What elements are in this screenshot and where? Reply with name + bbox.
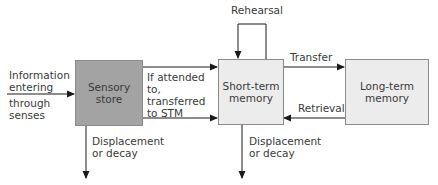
short-term-memory-label: Short-term memory [223,80,280,104]
sensory-decay-label: Displacement or decay [92,135,164,159]
retrieval-label: Retrieval [298,102,345,114]
sensory-store-box: Sensory store [75,60,143,126]
long-term-memory-box: Long-term memory [345,59,429,125]
sensory-store-label: Sensory store [88,81,130,105]
input-label-bottom: through senses [9,97,50,121]
stm-decay-label: Displacement or decay [249,135,321,159]
attended-label: If attended to, transferred to STM [147,71,206,119]
input-label-top: Information entering [9,69,70,93]
transfer-label: Transfer [290,51,332,63]
rehearsal-label: Rehearsal [231,4,283,16]
short-term-memory-box: Short-term memory [218,59,284,125]
long-term-memory-label: Long-term memory [360,80,414,104]
rehearsal-loop [238,24,266,59]
